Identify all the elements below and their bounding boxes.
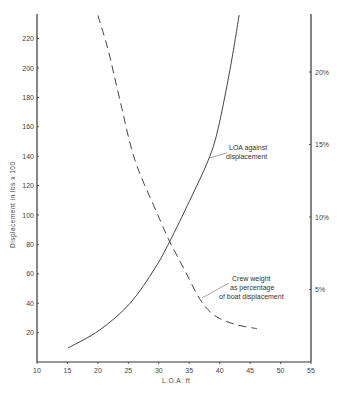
annotation-leader-loa xyxy=(209,153,227,158)
y-tick-label: 80 xyxy=(26,241,34,248)
y2-tick-label: 10% xyxy=(315,214,329,221)
annotation-crew-line2: as percentage xyxy=(230,284,274,292)
x-tick-label: 20 xyxy=(94,367,102,374)
x-tick-label: 25 xyxy=(124,367,132,374)
x-tick-label: 55 xyxy=(307,367,315,374)
y-tick-label: 60 xyxy=(26,270,34,277)
y-tick-label: 200 xyxy=(22,65,34,72)
x-tick-label: 45 xyxy=(246,367,254,374)
y-tick-label: 220 xyxy=(22,35,34,42)
y-tick-label: 40 xyxy=(26,300,34,307)
y2-tick-label: 20% xyxy=(315,69,329,76)
y2-tick-label: 15% xyxy=(315,141,329,148)
x-axis-title: L.O.A. ft xyxy=(162,377,190,384)
x-tick-label: 15 xyxy=(64,367,72,374)
x-tick-label: 40 xyxy=(216,367,224,374)
annotation-loa-line2: displacement xyxy=(226,153,267,161)
loa-displacement-curve xyxy=(68,15,239,348)
annotation-crew-line3: of boat displacement xyxy=(219,293,284,301)
x-tick-label: 10 xyxy=(33,367,41,374)
annotation-crew-line1: Crew weight xyxy=(232,275,271,283)
axes xyxy=(37,14,311,362)
y-tick-label: 140 xyxy=(22,153,34,160)
y-axis-title: Displacement in lbs x 100 xyxy=(9,161,17,248)
y-tick-label: 180 xyxy=(22,94,34,101)
x-tick-label: 30 xyxy=(155,367,163,374)
y-tick-label: 20 xyxy=(26,329,34,336)
y2-tick-label: 5% xyxy=(315,286,325,293)
x-tick-label: 50 xyxy=(277,367,285,374)
chart: 1015202530354045505520406080100120140160… xyxy=(0,0,340,396)
y-tick-label: 100 xyxy=(22,212,34,219)
annotation-loa-line1: LOA against xyxy=(229,144,267,152)
y-tick-label: 160 xyxy=(22,123,34,130)
x-tick-label: 35 xyxy=(185,367,193,374)
ticks: 1015202530354045505520406080100120140160… xyxy=(22,35,329,374)
y-tick-label: 120 xyxy=(22,182,34,189)
